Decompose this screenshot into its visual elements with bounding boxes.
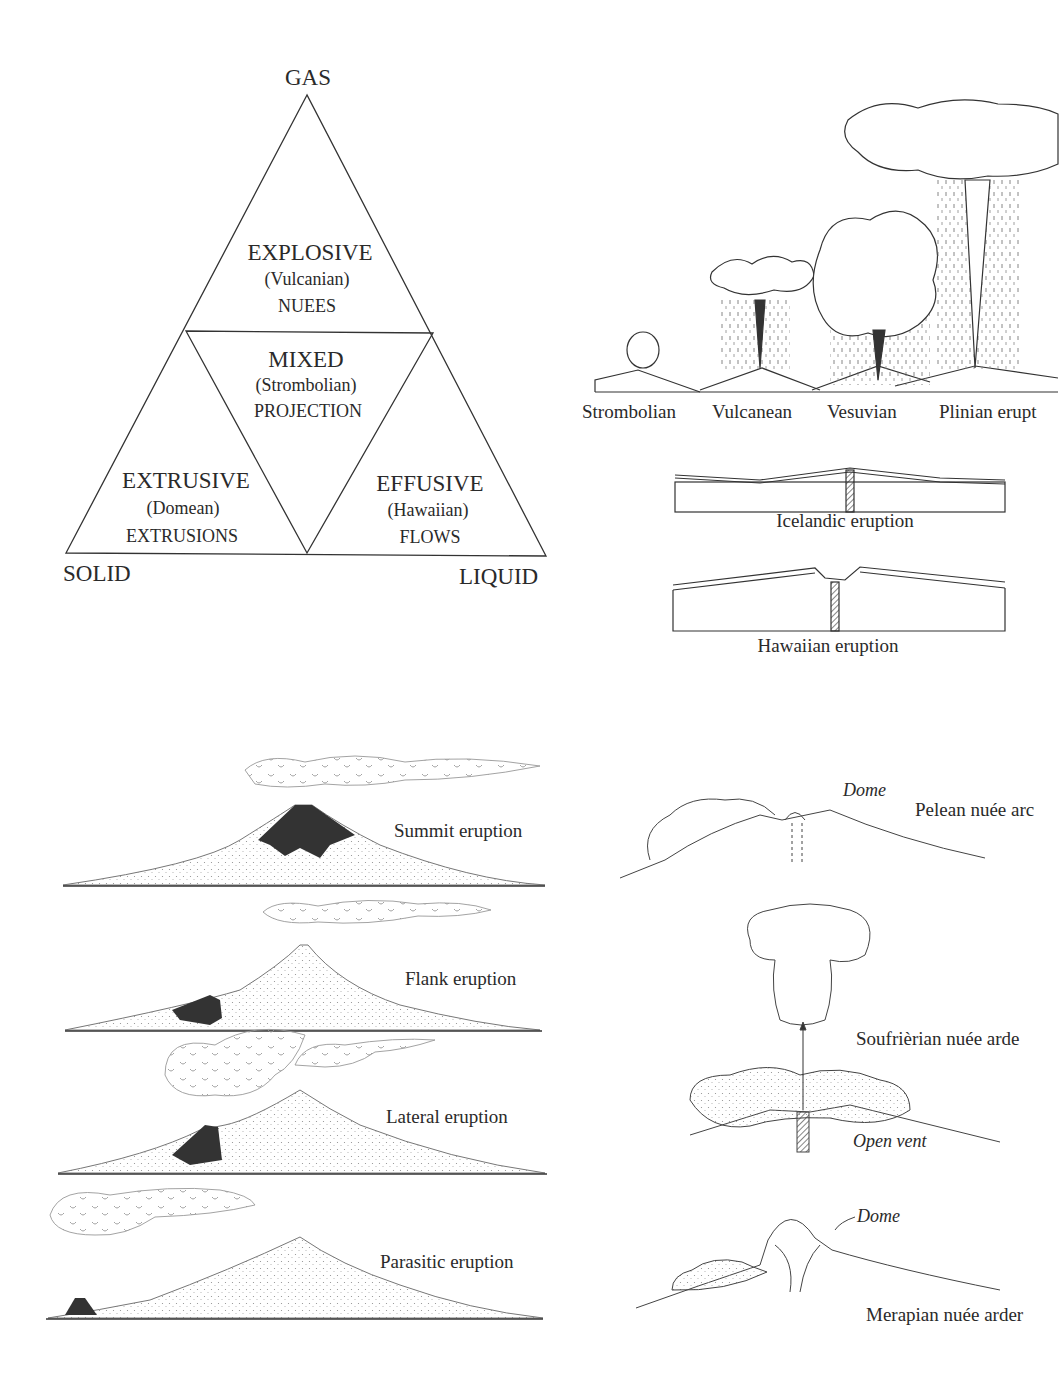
- hawaiian-section: [673, 567, 1005, 631]
- parasitic-eruption-label: Parasitic eruption: [380, 1252, 514, 1271]
- vertex-solid-label: SOLID: [63, 562, 131, 585]
- plume-label-vulcanean: Vulcanean: [712, 402, 792, 421]
- region-effusive-product: FLOWS: [399, 528, 460, 546]
- soufrierian-nuee-label: Soufrièrian nuée arde: [856, 1029, 1020, 1048]
- icelandic-eruption-label: Icelandic eruption: [776, 511, 914, 530]
- merapian-dome-annotation: Dome: [857, 1207, 900, 1225]
- lateral-eruption-drawing: [58, 1029, 547, 1174]
- region-extrusive-title: EXTRUSIVE: [122, 469, 250, 492]
- pelean-nuee-label: Pelean nuée arc: [915, 800, 1034, 819]
- region-explosive-type: (Vulcanian): [265, 270, 350, 288]
- diagram-canvas: [0, 0, 1063, 1389]
- summit-eruption-label: Summit eruption: [394, 821, 522, 840]
- region-mixed-product: PROJECTION: [254, 402, 362, 420]
- region-mixed-title: MIXED: [268, 348, 343, 371]
- lateral-eruption-label: Lateral eruption: [386, 1107, 508, 1126]
- hawaiian-eruption-label: Hawaiian eruption: [758, 636, 899, 655]
- flank-eruption-label: Flank eruption: [405, 969, 516, 988]
- vertex-gas-label: GAS: [285, 66, 331, 89]
- icelandic-section: [675, 468, 1005, 512]
- pelean-dome-annotation: Dome: [843, 781, 886, 799]
- region-explosive-title: EXPLOSIVE: [247, 241, 372, 264]
- open-vent-annotation: Open vent: [853, 1132, 926, 1150]
- region-effusive-type: (Hawaiian): [388, 501, 469, 519]
- region-mixed-type: (Strombolian): [256, 376, 357, 394]
- plume-label-plinian: Plinian erupt: [939, 402, 1037, 421]
- region-extrusive-type: (Domean): [147, 499, 220, 517]
- plume-sequence-drawing: [595, 100, 1058, 392]
- region-effusive-title: EFFUSIVE: [376, 472, 483, 495]
- flank-eruption-drawing: [65, 900, 542, 1031]
- merapian-nuee-label: Merapian nuée arder: [866, 1305, 1023, 1324]
- plume-label-strombolian: Strombolian: [582, 402, 676, 421]
- plume-label-vesuvian: Vesuvian: [827, 402, 897, 421]
- merapian-drawing: [636, 1217, 1000, 1308]
- vertex-liquid-label: LIQUID: [459, 565, 538, 588]
- region-explosive-product: NUEES: [278, 297, 336, 315]
- region-extrusive-product: EXTRUSIONS: [126, 527, 238, 545]
